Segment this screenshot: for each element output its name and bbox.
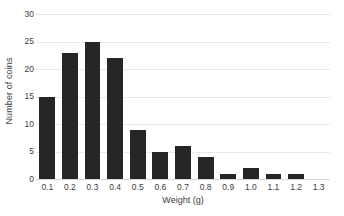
x-tick-label-0.5: 0.5 [126,182,149,192]
x-tick-label-0.9: 0.9 [217,182,240,192]
bar-chart-figure: Number of coins 051015202530 0.10.20.30.… [0,0,344,216]
x-tick-label-1.0: 1.0 [240,182,263,192]
bar [62,53,78,180]
bar [130,130,146,180]
x-tick-label-0.2: 0.2 [59,182,82,192]
x-tick-label-0.4: 0.4 [104,182,127,192]
y-axis-title-label: Number of coins [4,57,14,124]
y-tick-label-5: 5 [16,147,34,156]
bar [266,174,282,180]
x-tick-label-0.7: 0.7 [172,182,195,192]
x-tick-label-0.8: 0.8 [194,182,217,192]
x-tick-label-0.6: 0.6 [149,182,172,192]
x-tick-label-0.3: 0.3 [81,182,104,192]
x-axis-title: Weight (g) [36,195,330,205]
x-tick-label-1.3: 1.3 [307,182,330,192]
bar [288,174,304,180]
bars-layer [36,14,330,179]
x-tick-label-1.1: 1.1 [262,182,285,192]
y-tick-label-20: 20 [16,65,34,74]
bar [175,146,191,179]
y-tick-label-25: 25 [16,37,34,46]
y-tick-label-10: 10 [16,120,34,129]
bar [243,168,259,179]
plot-area [36,14,330,179]
x-tick-label-0.1: 0.1 [36,182,59,192]
bar [152,152,168,180]
bar [107,58,123,179]
bar [39,97,55,180]
y-axis-tick-labels: 051015202530 [16,0,34,190]
bar [85,42,101,180]
x-axis-tick-labels: 0.10.20.30.40.50.60.70.80.91.01.11.21.3 [36,182,330,194]
bar [220,174,236,180]
y-tick-label-0: 0 [16,175,34,184]
y-tick-label-15: 15 [16,92,34,101]
gridline-0 [36,179,330,180]
y-tick-label-30: 30 [16,10,34,19]
bar [198,157,214,179]
x-tick-label-1.2: 1.2 [285,182,308,192]
